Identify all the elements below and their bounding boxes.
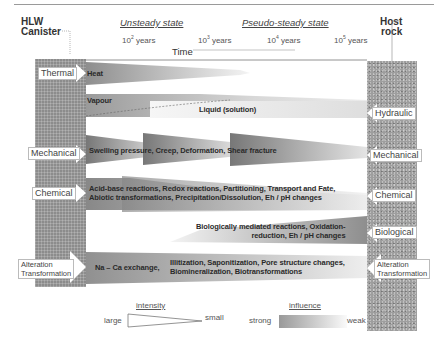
biological-line2: reduction, Eh / pH changes bbox=[196, 231, 345, 240]
band-biological-text: Biologically mediated reactions, Oxidati… bbox=[196, 222, 345, 240]
left-alteration-line1: Alteration bbox=[21, 260, 71, 269]
band-heat-text: Heat bbox=[87, 69, 103, 78]
left-label-chemical: Chemical bbox=[32, 187, 76, 200]
alteration-line1: Illitization, Saponitization, Pore struc… bbox=[170, 258, 345, 267]
right-label-alteration: Alteration Transformation bbox=[374, 259, 430, 279]
band-mechanical-text: Swelling pressure, Creep, Deformation, S… bbox=[89, 146, 277, 155]
left-label-alteration: Alteration Transformation bbox=[18, 259, 74, 279]
alteration-line2: Biomineralization, Biotransformations bbox=[170, 267, 345, 276]
right-alteration-line1: Alteration bbox=[377, 260, 427, 269]
left-alteration-line2: Transformation bbox=[21, 269, 71, 278]
band-alteration-text: Illitization, Saponitization, Pore struc… bbox=[170, 258, 345, 276]
right-label-chemical: Chemical bbox=[372, 189, 416, 202]
right-label-hydraulic: Hydraulic bbox=[372, 107, 416, 120]
biological-line1: Biologically mediated reactions, Oxidati… bbox=[196, 222, 345, 231]
band-alteration-left-text: Na – Ca exchange, bbox=[95, 263, 160, 272]
left-label-thermal: Thermal bbox=[38, 67, 77, 80]
right-label-biological: Biological bbox=[372, 226, 417, 239]
chemical-line2: Abiotic transformations, Precipitation/D… bbox=[89, 193, 335, 202]
band-chemical-text: Acid-base reactions, Redox reactions, Pa… bbox=[89, 184, 335, 202]
band-liquid-text: Liquid (solution) bbox=[199, 105, 256, 114]
arrow-overlay bbox=[0, 0, 446, 337]
right-alteration-line2: Transformation bbox=[377, 269, 427, 278]
right-label-mechanical: Mechanical bbox=[370, 149, 422, 162]
band-vapour-text: Vapour bbox=[87, 96, 112, 105]
chemical-line1: Acid-base reactions, Redox reactions, Pa… bbox=[89, 184, 335, 193]
left-label-mechanical: Mechanical bbox=[28, 147, 80, 160]
